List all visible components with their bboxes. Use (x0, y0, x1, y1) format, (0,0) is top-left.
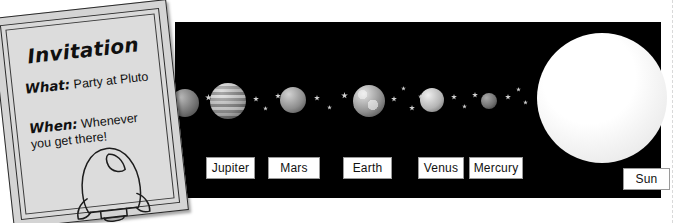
star-icon (523, 100, 528, 105)
star-icon (516, 87, 521, 92)
star-icon (327, 105, 332, 110)
invitation-card[interactable]: Invitation What: Party at Pluto When: Wh… (0, 0, 189, 223)
invitation-title: Invitation (8, 30, 158, 70)
star-icon (263, 106, 268, 111)
planet-label-venus[interactable]: Venus (418, 157, 464, 179)
planet-label-mercury[interactable]: Mercury (469, 157, 523, 179)
rocket-drawing-icon (64, 140, 158, 223)
star-icon (391, 96, 397, 102)
planet-label-jupiter[interactable]: Jupiter (206, 157, 255, 179)
planet-venus (420, 88, 444, 112)
star-icon (253, 96, 259, 102)
cut-off-header-text (232, 0, 432, 6)
card-paper: Invitation What: Party at Pluto When: Wh… (5, 13, 174, 214)
invitation-row-what: What: Party at Pluto (24, 67, 153, 98)
sun-graphic (537, 33, 667, 163)
star-icon (314, 95, 320, 101)
page-margin-guide (672, 0, 673, 223)
star-icon (401, 86, 406, 91)
planet-label-mars[interactable]: Mars (268, 157, 320, 179)
star-icon (451, 94, 457, 100)
star-icon (462, 104, 467, 109)
page-canvas: JupiterMarsEarthVenusMercury Sun Invitat… (0, 0, 681, 223)
solar-system-panel: JupiterMarsEarthVenusMercury Sun (175, 22, 661, 198)
planet-mars (280, 87, 306, 113)
planet-jupiter (210, 83, 246, 119)
planet-earth (353, 85, 385, 117)
invitation-what-label: What: (24, 76, 71, 97)
star-icon (505, 94, 511, 100)
planet-label-sun[interactable]: Sun (623, 168, 670, 190)
planet-label-earth[interactable]: Earth (343, 157, 392, 179)
planet-mercury (481, 93, 497, 109)
card-inner-border: Invitation What: Party at Pluto When: Wh… (0, 8, 180, 220)
star-icon (409, 105, 415, 111)
card-outer-border: Invitation What: Party at Pluto When: Wh… (0, 0, 189, 223)
invitation-what-value: Party at Pluto (73, 70, 149, 92)
star-icon (472, 92, 478, 98)
star-icon (341, 92, 348, 99)
